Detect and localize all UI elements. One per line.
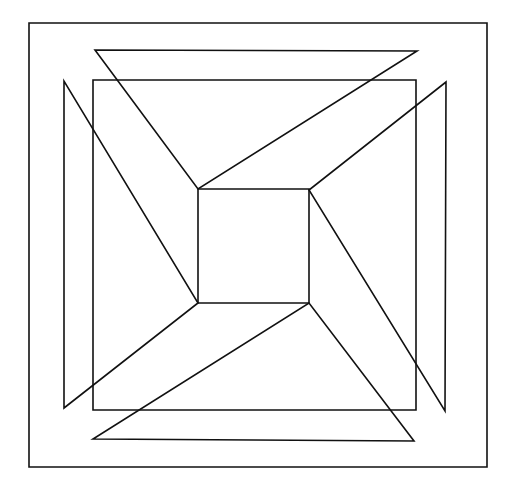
left-triangle	[64, 81, 198, 408]
diagram-canvas	[0, 0, 507, 483]
right-triangle	[309, 82, 446, 411]
outer-frame	[29, 23, 487, 467]
top-triangle	[95, 50, 417, 189]
bottom-triangle	[93, 303, 414, 441]
middle-square	[93, 80, 416, 410]
inner-square	[198, 189, 309, 303]
